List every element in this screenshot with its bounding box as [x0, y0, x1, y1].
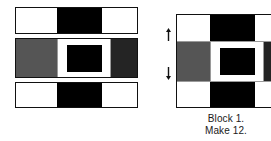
cell-bottom-center — [210, 82, 255, 108]
sashing-divider-right — [110, 39, 111, 77]
cell-bottom-left — [177, 82, 210, 108]
arrow-down-icon — [166, 67, 171, 80]
arrow-up-icon — [166, 28, 171, 41]
sashing-divider-left — [57, 39, 58, 77]
center-square-in-square — [67, 39, 102, 77]
gray-square-left — [16, 39, 57, 77]
block-caption: Block 1. Make 12. — [186, 113, 266, 137]
white-square-right — [102, 83, 137, 107]
white-sashing-left — [57, 39, 67, 77]
seam-line-vertical-left — [210, 42, 211, 82]
seam-arrow-lower — [166, 66, 171, 79]
diagram-canvas: Block 1. Make 12. — [0, 0, 271, 141]
white-square-left — [16, 8, 57, 33]
center-black-core — [67, 45, 102, 72]
white-square-right — [102, 8, 137, 33]
middle-row-unit — [15, 38, 138, 78]
top-row-unit — [15, 7, 138, 34]
cell-middle-left — [177, 42, 210, 82]
seam-line-vertical-right — [263, 42, 264, 82]
black-rectangle-center — [57, 83, 102, 107]
cell-top-center — [210, 15, 255, 42]
cell-middle-sashing-left — [210, 42, 220, 82]
cell-middle-right — [264, 42, 271, 82]
bottom-row-unit — [15, 82, 138, 108]
seam-arrow-upper — [166, 27, 171, 40]
assembled-block — [176, 14, 271, 108]
white-square-left — [16, 83, 57, 107]
cell-top-left — [177, 15, 210, 42]
dark-gray-square-right — [111, 39, 137, 77]
cell-middle-center — [220, 42, 255, 82]
cell-top-right — [255, 15, 271, 42]
seam-line-horizontal-upper — [177, 41, 271, 42]
black-rectangle-center — [57, 8, 102, 33]
seam-line-horizontal-lower — [177, 81, 271, 82]
caption-line-block: Block 1. — [186, 113, 266, 125]
cell-bottom-right — [255, 82, 271, 108]
center-black-core — [220, 48, 255, 75]
caption-line-make: Make 12. — [186, 125, 266, 137]
